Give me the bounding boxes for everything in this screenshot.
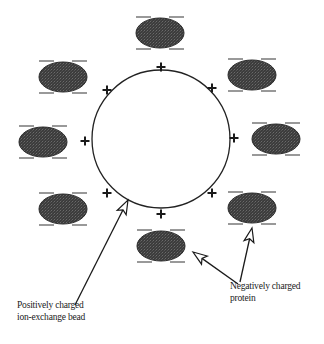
bead-label: Positively charged ion-exchange bead <box>17 299 85 323</box>
plus-charge-icon <box>103 189 112 198</box>
negative-protein <box>137 230 185 262</box>
bead-label-line2: ion-exchange bead <box>17 311 85 323</box>
negative-protein <box>39 193 87 225</box>
negative-protein <box>136 17 184 49</box>
protein-label-line1: Negatively charged <box>230 280 300 292</box>
protein-label: Negatively charged protein <box>230 280 300 304</box>
bead-circle <box>92 70 230 208</box>
negative-protein <box>228 59 276 91</box>
protein-label-line2: protein <box>230 292 300 304</box>
bead-label-line1: Positively charged <box>17 299 85 311</box>
plus-charge-icon <box>230 134 239 143</box>
plus-charge-icon <box>208 189 217 198</box>
ion-exchange-bead <box>92 70 230 208</box>
negative-protein <box>19 126 67 158</box>
arrow-icon <box>240 228 254 282</box>
plus-charge-icon <box>81 137 90 146</box>
negative-protein <box>252 123 300 155</box>
negative-protein <box>39 61 87 93</box>
plus-charge-icon <box>157 210 166 219</box>
negative-protein <box>228 192 276 224</box>
